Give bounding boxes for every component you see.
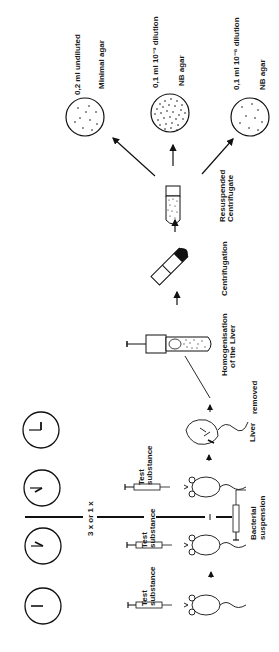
repeat-divider [25, 514, 232, 520]
syringe-bacterial-icon [233, 490, 246, 540]
arrow-to-plate-1 [113, 138, 155, 176]
resuspended-label-2: Centrifugate [226, 175, 235, 222]
plate-1-medium-label: Minimal agar [97, 40, 106, 89]
homogenisation-label-2: of the Liver [228, 325, 237, 368]
clock-4-icon [23, 412, 59, 448]
repeat-label: 3 x or 1 x [86, 501, 95, 536]
plate-nb-agar-sparse-icon [231, 98, 269, 136]
test-substance-2-label-2: substance [148, 508, 157, 548]
mouse-dissected-icon [186, 420, 248, 445]
plate-minimal-agar-icon [66, 98, 104, 136]
clock-2-icon [25, 528, 61, 564]
plate-2-medium-label: NB agar [177, 55, 186, 86]
mouse-3-icon [184, 477, 246, 497]
experiment-diagram [0, 0, 279, 652]
mouse-2-icon [184, 535, 246, 555]
mouse-1-icon [184, 595, 246, 615]
test-substance-1-label-2: substance [148, 566, 157, 606]
removed-label: removed [250, 381, 259, 414]
bacterial-label-1: Bacterial [249, 506, 258, 540]
liver-label: Liver [248, 423, 257, 442]
clock-3-icon [24, 470, 60, 506]
test-substance-3-label-2: substance [145, 445, 154, 485]
plate-3-medium-label: NB agar [258, 59, 267, 90]
line-liver-to-homogeniser [185, 356, 210, 398]
plate-3-volume-label: 0,1 ml 10⁻⁶ dilution [232, 17, 241, 90]
resuspended-tube-icon [166, 186, 180, 224]
plate-nb-agar-dense-icon [151, 94, 189, 132]
clock-1-icon [25, 588, 61, 624]
centrifuge-tube-icon [151, 245, 191, 285]
centrifugation-label: Centrifugation [220, 241, 229, 296]
bacterial-label-2: suspension [258, 496, 267, 540]
homogeniser-icon [127, 335, 211, 353]
plate-2-volume-label: 0,1 ml 10⁻³ dilution [151, 16, 160, 88]
plate-1-volume-label: 0,2 ml undiluted [73, 34, 82, 95]
